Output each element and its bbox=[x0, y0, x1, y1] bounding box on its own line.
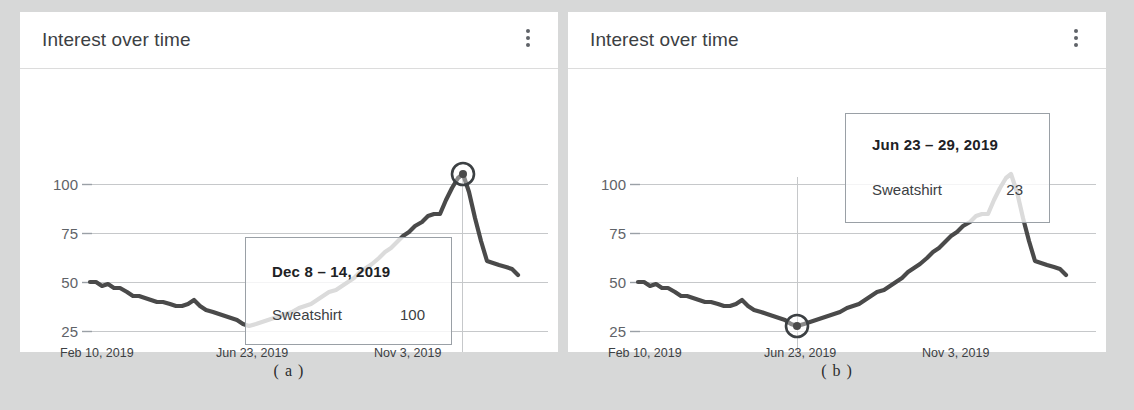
tooltip-value: 23 bbox=[1006, 181, 1023, 198]
tooltip-value: 100 bbox=[400, 306, 425, 323]
card-header-a: Interest over time bbox=[20, 12, 558, 69]
x-tick-label: Feb 10, 2019 bbox=[608, 346, 682, 360]
figure-caption-a: ( a ) bbox=[20, 362, 558, 380]
x-tick-label: Nov 3, 2019 bbox=[374, 346, 441, 360]
x-tick-label: Nov 3, 2019 bbox=[922, 346, 989, 360]
svg-text:75: 75 bbox=[609, 225, 626, 242]
y-axis-ticks bbox=[82, 185, 92, 332]
kebab-menu-icon[interactable] bbox=[1066, 29, 1086, 53]
svg-text:75: 75 bbox=[61, 225, 78, 242]
svg-text:50: 50 bbox=[61, 274, 78, 291]
svg-text:100: 100 bbox=[53, 176, 78, 193]
x-tick-label: Feb 10, 2019 bbox=[60, 346, 134, 360]
chart-plot-b[interactable]: 100 75 50 25 Feb 10, 20 bbox=[568, 69, 1106, 352]
figure-root: Interest over time 10 bbox=[0, 0, 1134, 410]
svg-text:25: 25 bbox=[609, 323, 626, 340]
kebab-dot bbox=[1074, 29, 1078, 33]
page-title: Interest over time bbox=[42, 29, 191, 51]
tooltip-term: Sweatshirt bbox=[272, 306, 342, 323]
card-header-b: Interest over time bbox=[568, 12, 1106, 69]
tooltip-term: Sweatshirt bbox=[872, 181, 942, 198]
chart-tooltip-b: Jun 23 – 29, 2019 Sweatshirt 23 bbox=[845, 113, 1050, 223]
x-tick-label: Jun 23, 2019 bbox=[764, 346, 836, 360]
figure-caption-b: ( b ) bbox=[568, 362, 1106, 380]
trends-card-a: Interest over time 10 bbox=[20, 12, 558, 352]
x-tick-label: Jun 23, 2019 bbox=[216, 346, 288, 360]
svg-text:50: 50 bbox=[609, 274, 626, 291]
kebab-dot bbox=[1074, 43, 1078, 47]
kebab-dot bbox=[1074, 36, 1078, 40]
kebab-dot bbox=[526, 43, 530, 47]
svg-text:25: 25 bbox=[61, 323, 78, 340]
tooltip-date: Dec 8 – 14, 2019 bbox=[272, 263, 390, 280]
highlight-marker[interactable] bbox=[452, 163, 474, 185]
y-axis-ticks bbox=[630, 185, 640, 332]
svg-text:100: 100 bbox=[601, 176, 626, 193]
chart-plot-a[interactable]: 100 75 50 25 bbox=[20, 69, 558, 352]
chart-tooltip-a: Dec 8 – 14, 2019 Sweatshirt 100 bbox=[245, 237, 452, 345]
page-title: Interest over time bbox=[590, 29, 739, 51]
kebab-menu-icon[interactable] bbox=[518, 29, 538, 53]
y-axis-labels: 100 75 50 25 bbox=[53, 176, 78, 340]
trends-card-b: Interest over time 100 75 50 bbox=[568, 12, 1106, 352]
kebab-dot bbox=[526, 36, 530, 40]
kebab-dot bbox=[526, 29, 530, 33]
highlight-marker[interactable] bbox=[786, 315, 808, 337]
tooltip-date: Jun 23 – 29, 2019 bbox=[872, 136, 998, 153]
y-axis-labels: 100 75 50 25 bbox=[601, 176, 626, 340]
